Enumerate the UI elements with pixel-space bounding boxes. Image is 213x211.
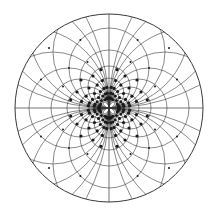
intersection-dot — [68, 67, 70, 69]
intersection-dot — [101, 134, 104, 137]
diagram-canvas — [0, 0, 213, 211]
intersection-dot — [93, 121, 96, 124]
intersection-dot — [69, 115, 72, 118]
intersection-dot — [102, 126, 105, 129]
intersection-dot — [114, 134, 117, 137]
intersection-dot — [96, 84, 99, 87]
intersection-dot — [114, 95, 117, 98]
intersection-dot — [117, 106, 120, 109]
intersection-dot — [127, 126, 130, 129]
intersection-dot — [127, 112, 130, 115]
intersection-dot — [87, 86, 90, 89]
intersection-dot — [122, 92, 125, 95]
intersection-dot — [97, 96, 100, 99]
intersection-dot — [154, 86, 156, 88]
intersection-dot — [88, 101, 91, 104]
intersection-dot — [96, 100, 99, 103]
intersection-dot — [139, 90, 142, 93]
intersection-dot — [113, 126, 116, 129]
intersection-dot — [40, 78, 42, 80]
intersection-dot — [130, 153, 132, 155]
intersection-dot — [135, 78, 138, 81]
intersection-dot — [146, 115, 149, 118]
intersection-dot — [40, 136, 42, 138]
intersection-dot — [75, 90, 78, 93]
intersection-dot — [118, 96, 121, 99]
dipole-diagram — [0, 0, 213, 211]
intersection-dot — [128, 104, 131, 107]
intersection-dot — [101, 95, 104, 98]
intersection-dot — [130, 118, 133, 121]
intersection-dot — [110, 127, 113, 130]
intersection-dot — [80, 100, 83, 103]
intersection-dot — [93, 92, 96, 95]
intersection-dot — [118, 117, 121, 120]
intersection-dot — [128, 109, 131, 112]
intersection-dot — [87, 126, 90, 129]
intersection-dot — [85, 118, 88, 121]
intersection-dot — [107, 96, 110, 99]
intersection-dot — [100, 114, 103, 117]
field-lines — [0, 0, 213, 211]
intersection-dot — [91, 115, 94, 118]
intersection-dot — [135, 134, 138, 137]
intersection-dot — [110, 86, 113, 89]
intersection-dot — [148, 147, 150, 149]
intersection-dot — [130, 61, 132, 63]
intersection-dot — [139, 122, 142, 125]
intersection-dot — [99, 123, 102, 126]
intersection-dot — [87, 153, 89, 155]
intersection-dot — [119, 113, 122, 116]
intersection-dot — [62, 86, 64, 88]
intersection-dot — [99, 145, 102, 148]
intersection-dot — [48, 167, 50, 169]
intersection-dot — [154, 129, 156, 131]
intersection-dot — [137, 39, 139, 41]
intersection-dot — [135, 100, 138, 103]
intersection-dot — [79, 78, 82, 81]
intersection-dot — [69, 98, 72, 101]
intersection-dot — [68, 147, 70, 149]
intersection-dot — [122, 105, 125, 108]
intersection-dot — [102, 87, 105, 90]
intersection-dot — [146, 98, 149, 101]
intersection-dot — [119, 100, 122, 103]
intersection-dot — [115, 114, 118, 117]
intersection-dot — [80, 113, 83, 116]
intersection-dot — [75, 122, 78, 125]
intersection-dot — [123, 138, 126, 141]
intersection-dot — [87, 109, 90, 112]
intersection-dot — [96, 113, 99, 116]
intersection-dot — [135, 113, 138, 116]
intersection-dot — [168, 167, 170, 169]
intersection-dot — [105, 127, 108, 130]
intersection-dot — [62, 129, 64, 131]
intersection-dot — [79, 175, 81, 177]
intersection-dot — [114, 118, 117, 121]
intersection-dot — [91, 98, 94, 101]
intersection-dot — [116, 68, 119, 71]
intersection-dot — [96, 129, 99, 132]
intersection-dot — [107, 116, 110, 119]
intersection-dot — [79, 39, 81, 41]
intersection-dot — [101, 118, 104, 121]
intersection-dot — [168, 47, 170, 49]
intersection-dot — [119, 84, 122, 87]
intersection-dot — [100, 99, 103, 102]
intersection-dot — [87, 104, 90, 107]
intersection-dot — [88, 112, 91, 115]
intersection-dot — [87, 61, 89, 63]
intersection-dot — [115, 99, 118, 102]
intersection-dot — [122, 121, 125, 124]
intersection-dot — [114, 79, 117, 82]
intersection-dot — [93, 105, 96, 108]
intersection-dot — [123, 74, 126, 77]
intersection-dot — [130, 95, 133, 98]
intersection-dot — [148, 67, 150, 69]
intersection-dot — [124, 115, 127, 118]
intersection-dot — [106, 92, 109, 95]
intersection-dot — [176, 136, 178, 138]
intersection-dot — [122, 108, 125, 111]
intersection-dot — [97, 117, 100, 120]
intersection-dot — [106, 121, 109, 124]
